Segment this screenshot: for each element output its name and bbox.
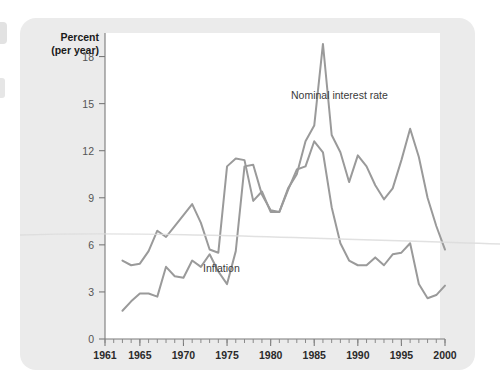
y-tick-label: 6 — [88, 239, 94, 251]
x-tick-label: 1970 — [172, 349, 196, 361]
x-tick-label: 1985 — [303, 349, 327, 361]
y-tick-marks — [99, 57, 105, 339]
y-axis-title-line1: Percent — [60, 31, 99, 43]
x-tick-label: 1995 — [390, 349, 414, 361]
y-tick-labels: 0369121518 — [82, 51, 94, 345]
plot-area-background — [105, 33, 440, 339]
x-tick-label: 2000 — [433, 349, 457, 361]
x-tick-marks — [105, 339, 445, 346]
chart-canvas: 0369121518 19611965197019751980198519901… — [0, 0, 500, 388]
x-tick-label: 1961 — [93, 349, 117, 361]
x-tick-label: 1965 — [128, 349, 152, 361]
y-axis-title-line2: (per year) — [51, 44, 99, 56]
y-tick-label: 9 — [88, 192, 94, 204]
x-minor-tick-marks — [105, 339, 445, 343]
x-tick-labels: 196119651970197519801985199019952000 — [93, 349, 457, 361]
y-tick-label: 0 — [88, 333, 94, 345]
x-tick-label: 1990 — [346, 349, 370, 361]
annotation-nominal-interest-rate: Nominal interest rate — [291, 89, 388, 101]
x-tick-label: 1980 — [259, 349, 283, 361]
annotation-inflation: Inflation — [203, 262, 240, 274]
y-tick-label: 12 — [82, 145, 94, 157]
y-tick-label: 3 — [88, 286, 94, 298]
x-tick-label: 1975 — [215, 349, 239, 361]
y-tick-label: 15 — [82, 98, 94, 110]
